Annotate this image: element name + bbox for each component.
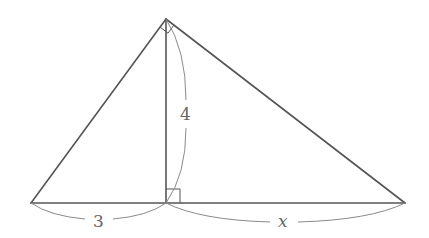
right-segment-label: x [278,211,288,231]
right-segment-brace-right [298,203,405,222]
left-segment-brace-left [31,203,85,219]
side-BC [166,19,405,203]
side-AB [31,19,166,203]
left-segment-label: 3 [93,211,104,231]
right-segment-brace-left [166,203,270,222]
altitude-brace-lower [166,128,186,203]
altitude-label: 4 [180,104,191,124]
left-segment-brace-right [113,203,166,219]
triangle-diagram: 4 3 x [0,0,429,238]
